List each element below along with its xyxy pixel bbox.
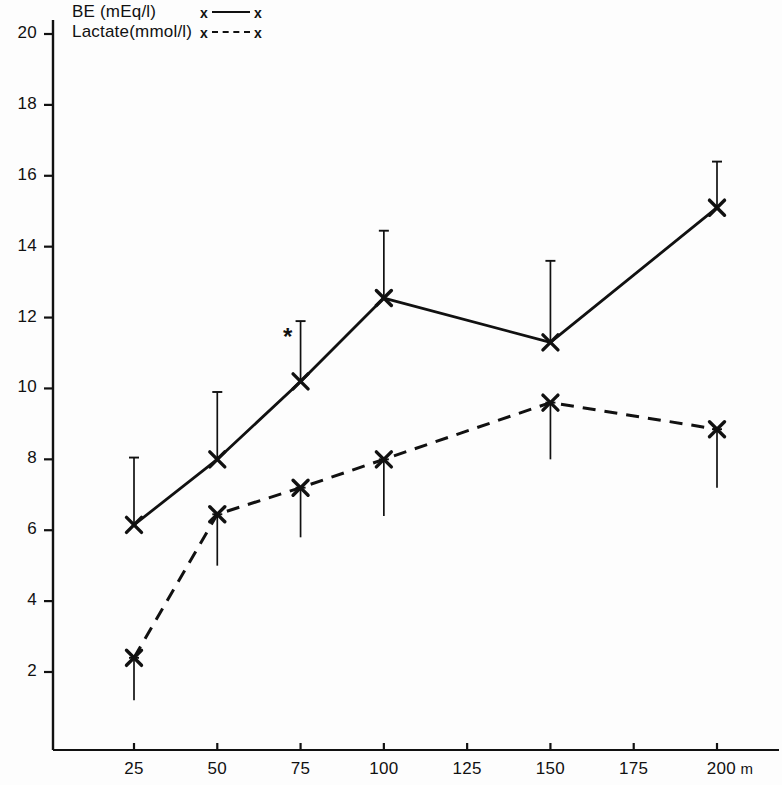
x-tick-label: 175 [604,759,664,779]
chart-figure: * BE (mEq/l) x x Lactate(mmol/l) x x 246… [0,0,782,785]
x-tick-value: 200 [707,759,736,778]
legend-sample-dashed: x x [200,25,262,39]
y-tick-label: 4 [3,590,37,610]
legend-entry-be: BE (mEq/l) x x [72,2,372,22]
legend-marker-left-lactate: x [200,23,208,43]
y-tick-label: 20 [3,23,37,43]
significance-asterisk-icon: * [283,323,293,350]
x-tick-label: 50 [187,759,247,779]
x-tick-label: 200 m [690,759,770,779]
legend-marker-right-lactate: x [254,23,262,43]
y-tick-label: 2 [3,661,37,681]
y-tick-label: 8 [3,448,37,468]
y-tick-label: 16 [3,165,37,185]
legend-label-lactate: Lactate(mmol/l) [72,22,200,42]
x-axis-unit-label: m [736,760,753,777]
y-tick-label: 14 [3,236,37,256]
legend-marker-right-be: x [254,3,262,23]
x-tick-label: 100 [354,759,414,779]
legend-label-be: BE (mEq/l) [72,2,200,22]
legend-line-solid [212,11,250,13]
y-tick-label: 6 [3,519,37,539]
series-line-be [134,208,717,525]
series-line-lactate [134,403,717,658]
chart-legend: BE (mEq/l) x x Lactate(mmol/l) x x [72,2,372,42]
y-tick-label: 10 [3,377,37,397]
legend-sample-solid: x x [200,5,262,19]
x-tick-label: 150 [520,759,580,779]
y-tick-label: 18 [3,94,37,114]
x-tick-label: 75 [271,759,331,779]
x-tick-label: 125 [437,759,497,779]
chart-plot-area: * [0,0,782,785]
y-tick-label: 12 [3,307,37,327]
legend-entry-lactate: Lactate(mmol/l) x x [72,22,372,42]
legend-line-dashed [212,31,250,33]
legend-marker-left-be: x [200,3,208,23]
x-tick-label: 25 [104,759,164,779]
